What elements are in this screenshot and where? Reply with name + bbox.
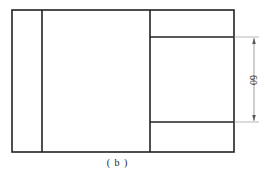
arrow-up-icon xyxy=(252,38,256,44)
dimension-label: 60 xyxy=(248,75,259,85)
arrow-down-icon xyxy=(252,115,256,121)
technical-drawing: 60 xyxy=(0,0,265,183)
figure-caption: ( b ) xyxy=(0,157,235,168)
dimension-60: 60 xyxy=(234,37,259,122)
outer-frame xyxy=(12,10,234,152)
